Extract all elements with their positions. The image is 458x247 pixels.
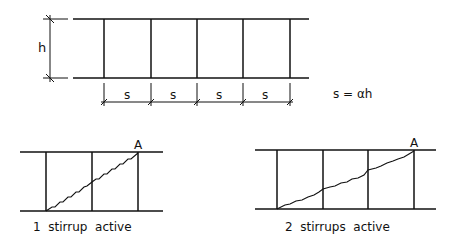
caption: 1 stirrup active bbox=[33, 220, 132, 234]
height-dimension: h bbox=[38, 15, 68, 82]
point-a-label: A bbox=[134, 138, 143, 152]
spacing-label: s bbox=[262, 88, 268, 102]
spacing-formula: s = αh bbox=[333, 87, 372, 101]
spacing-label: s bbox=[124, 88, 130, 102]
spacing-dimension: s s s s bbox=[101, 83, 293, 106]
stirrup-diagram: h s s s s s = αh A 1 stirrup active bbox=[0, 0, 458, 247]
caption: 2 stirrups active bbox=[285, 220, 390, 234]
one-stirrup-diagram: A 1 stirrup active bbox=[20, 138, 163, 234]
height-label: h bbox=[38, 40, 46, 55]
spacing-label: s bbox=[216, 88, 222, 102]
point-a-label: A bbox=[410, 136, 419, 150]
top-beam bbox=[73, 19, 309, 78]
spacing-label: s bbox=[170, 88, 176, 102]
crack-line bbox=[277, 151, 414, 209]
two-stirrups-diagram: A 2 stirrups active bbox=[255, 136, 436, 234]
